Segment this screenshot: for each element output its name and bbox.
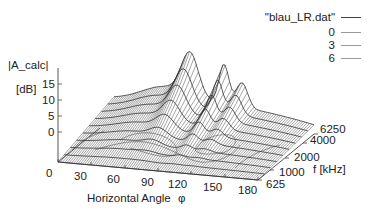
y-tick-4000: 4000	[310, 135, 336, 147]
x-tick-150: 150	[203, 182, 222, 194]
x-tick-30: 30	[74, 171, 87, 183]
z-ticks	[58, 84, 62, 132]
legend-entry-6: 6	[329, 53, 361, 65]
legend-line-icon	[341, 58, 361, 59]
legend-entry-0: 0	[329, 27, 361, 39]
x-tick-90: 90	[141, 177, 154, 189]
z-axis-unit: [dB]	[16, 84, 36, 96]
x-axis-label-text: Horizontal Angle	[87, 192, 171, 204]
legend-label: 0	[329, 27, 335, 39]
x-tick-60: 60	[107, 174, 120, 186]
surface-mesh	[58, 52, 314, 181]
y-tick-625: 625	[266, 179, 285, 191]
legend-line-icon	[341, 17, 361, 18]
z-tick-5: 5	[48, 111, 54, 123]
legend-entry-surface: "blau_LR.dat"	[265, 12, 361, 24]
x-tick-180: 180	[238, 185, 257, 197]
legend-label: "blau_LR.dat"	[265, 12, 335, 24]
y-tick-1000: 1000	[279, 167, 305, 179]
legend-line-icon	[341, 32, 361, 33]
y-tick-2000: 2000	[294, 152, 320, 164]
z-tick-10: 10	[42, 95, 55, 107]
x-axis-label: Horizontal Angle φ	[87, 193, 185, 205]
legend-line-icon	[341, 45, 361, 46]
z-tick-15: 15	[42, 79, 55, 91]
x-tick-0: 0	[46, 168, 52, 180]
z-axis-label: |A_calc|	[8, 60, 49, 72]
x-axis-symbol: φ	[178, 192, 185, 204]
legend-entry-3: 3	[329, 40, 361, 52]
y-tick-6250: 6250	[320, 124, 346, 136]
z-tick-0: 0	[48, 127, 54, 139]
legend-label: 3	[329, 40, 335, 52]
y-axis-label: f [kHz]	[313, 164, 346, 176]
x-tick-120: 120	[168, 179, 187, 191]
legend-label: 6	[329, 53, 335, 65]
